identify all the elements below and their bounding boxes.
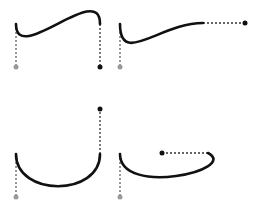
- start-control-point[interactable]: [118, 65, 123, 70]
- bezier-curve: [16, 11, 100, 36]
- end-control-point[interactable]: [98, 107, 103, 112]
- start-control-point[interactable]: [118, 195, 123, 200]
- end-control-point[interactable]: [98, 65, 103, 70]
- start-control-point[interactable]: [14, 195, 19, 200]
- end-control-point[interactable]: [160, 151, 165, 156]
- end-control-point[interactable]: [243, 21, 248, 26]
- panel-3: [14, 107, 103, 200]
- bezier-diagram: [0, 0, 264, 214]
- bezier-curve: [120, 153, 213, 177]
- bezier-curve: [120, 23, 203, 43]
- bezier-curve: [16, 154, 100, 186]
- panel-4: [118, 151, 214, 200]
- panel-2: [118, 21, 248, 70]
- panel-1: [14, 11, 103, 69]
- start-control-point[interactable]: [14, 65, 19, 70]
